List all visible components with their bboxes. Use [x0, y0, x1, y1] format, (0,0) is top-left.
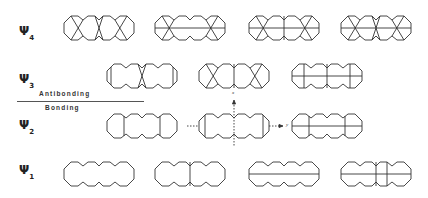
psi-index: 4 [29, 34, 34, 42]
psi-index: 2 [29, 128, 34, 136]
psi4-label: Ψ4 [19, 24, 34, 40]
psi1-diagram-1 [64, 160, 134, 188]
psi3-diagram-2 [199, 62, 269, 90]
psi1-diagram-3 [249, 160, 319, 188]
psi-symbol: Ψ [19, 163, 29, 177]
psi-symbol: Ψ [19, 24, 29, 38]
psi2-label: Ψ2 [19, 118, 34, 134]
antibonding-label: Antibonding [39, 90, 90, 97]
psi-symbol: Ψ [19, 72, 29, 86]
psi2-diagram-1 [107, 112, 177, 140]
psi4-diagram-1 [64, 14, 134, 42]
psi-index: 1 [29, 173, 34, 181]
psi2-diagram-3 [292, 112, 362, 140]
psi3-label: Ψ3 [19, 72, 34, 88]
psi3-diagram-3 [292, 62, 362, 90]
psi-symbol: Ψ [19, 118, 29, 132]
psi4-diagram-4 [341, 14, 411, 42]
psi2-diagram-2 [199, 112, 269, 140]
psi1-diagram-2 [155, 160, 225, 188]
bonding-divider [17, 101, 144, 102]
psi4-diagram-2 [155, 14, 225, 42]
psi1-diagram-4 [341, 160, 411, 188]
psi1-label: Ψ1 [19, 163, 34, 179]
y-axis-label: y [286, 122, 288, 127]
psi4-diagram-3 [249, 14, 319, 42]
x-axis-label-top: x [232, 90, 234, 95]
psi3-diagram-1 [107, 62, 177, 90]
psi-index: 3 [29, 82, 34, 90]
bonding-label: Bonding [45, 104, 80, 111]
